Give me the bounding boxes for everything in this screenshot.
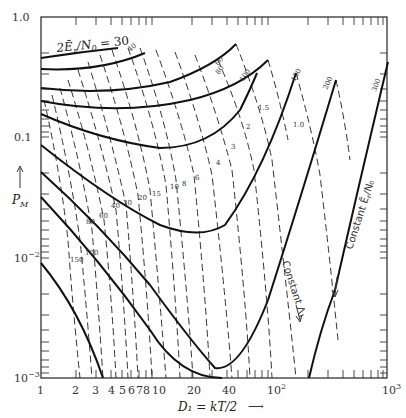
x-tick-3: 3 bbox=[92, 384, 99, 397]
dashed-label-60: 60 bbox=[99, 212, 108, 220]
y-tick-0.01: 10−2 bbox=[14, 250, 40, 265]
x-ticks-top bbox=[76, 17, 383, 25]
dashed-curve-80 bbox=[60, 88, 103, 378]
dashed-label-8: 8 bbox=[182, 180, 186, 188]
dashed-label-80: 80 bbox=[86, 218, 95, 226]
x-tick-40: 40 bbox=[222, 384, 236, 397]
y-axis-title: PM bbox=[11, 193, 29, 209]
x-axis-arrow: ⟶ bbox=[248, 400, 264, 413]
x-axis-title: D₁ = kT/2 bbox=[177, 400, 237, 414]
dashed-label-30: 30 bbox=[123, 199, 132, 207]
x-tick-8: 8 bbox=[143, 384, 150, 397]
dashed-label-15: 15 bbox=[152, 190, 161, 198]
dashed-label-2: 2 bbox=[246, 123, 250, 131]
solid-curve-100 bbox=[41, 73, 257, 148]
constant-er-label: Constant Ēr/N₀ bbox=[342, 178, 378, 251]
x-tick-7: 7 bbox=[136, 384, 143, 397]
y-tick-0.001: 10−3 bbox=[14, 370, 40, 385]
x-tick-10: 10 bbox=[152, 384, 166, 397]
solid-curve-300-left bbox=[41, 197, 222, 378]
x-tick-6: 6 bbox=[128, 384, 135, 397]
dashed-label-4: 4 bbox=[216, 159, 221, 167]
x-ticks-bottom bbox=[76, 370, 383, 378]
chart-svg: 1.0 0.1 10−2 10−3 1 2 3 4 5 6 7 8 10 20 … bbox=[0, 0, 406, 418]
dashed-curve-3 bbox=[195, 55, 250, 378]
x-tick-100: 102 bbox=[267, 382, 286, 397]
dashed-label-150: 150 bbox=[70, 256, 83, 264]
dashed-label-1.5: 1.5 bbox=[258, 104, 269, 112]
solid-curve-300-right bbox=[309, 62, 388, 378]
curve-label-30: 2Ēr/N0 = 30 bbox=[55, 32, 130, 57]
y-tick-0.1: 0.1 bbox=[14, 131, 32, 144]
x-tick-2: 2 bbox=[72, 384, 79, 397]
dashed-label-20: 20 bbox=[138, 194, 147, 202]
solid-curve-80 bbox=[41, 60, 268, 108]
dashed-label-100: 100 bbox=[85, 249, 98, 257]
dashed-lambda-curves bbox=[44, 44, 350, 378]
dashed-label-6: 6 bbox=[195, 174, 200, 182]
x-tick-20: 20 bbox=[187, 384, 201, 397]
dashed-curve-extra-a bbox=[268, 60, 288, 140]
dashed-label-1.0: 1.0 bbox=[293, 121, 304, 129]
solid-curve-low bbox=[41, 263, 103, 378]
solid-er-curves bbox=[41, 44, 388, 378]
x-tick-5: 5 bbox=[119, 384, 126, 397]
y-tick-1: 1.0 bbox=[12, 11, 30, 24]
solid-label-150: 150 bbox=[290, 67, 303, 83]
dashed-label-3: 3 bbox=[231, 143, 235, 151]
x-tick-1000: 103 bbox=[382, 382, 401, 397]
x-tick-1: 1 bbox=[37, 384, 44, 397]
y-ticks-right bbox=[380, 53, 387, 373]
x-tick-4: 4 bbox=[108, 384, 115, 397]
constant-lambda-label: Constant Λ₁ bbox=[280, 259, 309, 318]
dashed-curve-150 bbox=[44, 100, 80, 378]
dashed-label-40: 40 bbox=[111, 202, 120, 210]
dashed-curve-extra-b bbox=[336, 80, 350, 160]
dashed-label-10: 10 bbox=[170, 183, 179, 191]
dashed-curve-1.5 bbox=[236, 44, 296, 378]
